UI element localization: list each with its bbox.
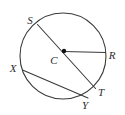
label-S: S <box>27 14 33 26</box>
diameter-ST-line <box>38 25 96 89</box>
label-C: C <box>50 54 58 66</box>
chord-XY-line <box>23 70 89 98</box>
label-T: T <box>98 86 105 98</box>
geometry-figure: S R C X T Y <box>0 0 125 115</box>
radius-CR-line <box>64 52 106 53</box>
circle-diagram-svg: S R C X T Y <box>0 0 125 115</box>
label-R: R <box>108 49 116 61</box>
label-Y: Y <box>82 99 90 111</box>
label-X: X <box>9 62 18 74</box>
center-point-dot <box>62 49 66 53</box>
